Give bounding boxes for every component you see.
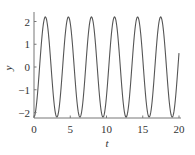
y-tick-label: −1: [18, 84, 30, 96]
x-axis-label: t: [105, 137, 109, 149]
y-axis-label: y: [2, 65, 14, 71]
x-tick-label: 0: [31, 123, 37, 135]
x-tick-label: 20: [174, 123, 186, 135]
series-line: [34, 17, 179, 117]
line-chart: −2−1012 05101520 y t: [0, 0, 195, 155]
y-tick-label: 2: [25, 16, 31, 28]
x-tick-label: 5: [68, 123, 74, 135]
y-tick-label: −2: [18, 107, 30, 119]
x-tick-label: 15: [137, 123, 149, 135]
y-tick-label: 0: [25, 61, 31, 73]
x-tick-label: 10: [101, 123, 113, 135]
y-tick-label: 1: [25, 38, 31, 50]
